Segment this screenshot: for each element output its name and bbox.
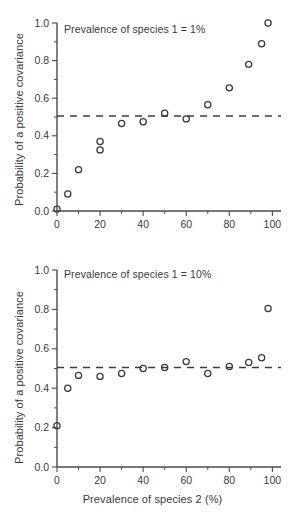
y-tick-label: 0.8	[34, 54, 49, 66]
data-point	[246, 359, 252, 365]
data-point	[265, 20, 271, 26]
data-point	[65, 385, 71, 391]
data-point	[75, 372, 81, 378]
y-tick-label: 0.4	[34, 129, 49, 141]
data-point	[97, 373, 103, 379]
data-point	[226, 85, 232, 91]
y-tick-label: 0.0	[34, 461, 49, 473]
plot-area-bottom: 0.00.20.40.60.81.0020406080100	[0, 258, 305, 522]
y-axis-label-top: Probability of a positive covariance	[13, 33, 25, 206]
data-point	[183, 359, 189, 365]
panel-annotation-bottom: Prevalence of species 1 = 10%	[64, 268, 211, 280]
plot-area-top: 0.00.20.40.60.81.0020406080100	[0, 0, 305, 258]
y-tick-label: 0.4	[34, 382, 49, 394]
x-tick-label: 40	[137, 218, 149, 230]
y-tick-label: 0.2	[34, 167, 49, 179]
data-point	[119, 120, 125, 126]
y-axis-label-bottom: Probability of a positive covariance	[13, 291, 25, 464]
y-tick-label: 0.8	[34, 303, 49, 315]
x-tick-label: 100	[264, 474, 282, 486]
y-tick-label: 1.0	[34, 17, 49, 29]
y-tick-label: 0.0	[34, 205, 49, 217]
data-point	[265, 305, 271, 311]
y-tick-label: 0.2	[34, 421, 49, 433]
x-tick-label: 100	[264, 218, 282, 230]
panel-top: 0.00.20.40.60.81.0020406080100 Prevalenc…	[0, 0, 305, 258]
data-point	[97, 138, 103, 144]
x-tick-label: 80	[223, 474, 235, 486]
data-point	[205, 102, 211, 108]
y-tick-label: 1.0	[34, 264, 49, 276]
data-point	[140, 119, 146, 125]
data-point	[205, 370, 211, 376]
panel-bottom: 0.00.20.40.60.81.0020406080100 Prevalenc…	[0, 258, 305, 522]
data-point	[226, 363, 232, 369]
x-tick-label: 20	[94, 474, 106, 486]
data-point	[259, 355, 265, 361]
x-tick-label: 80	[223, 218, 235, 230]
figure-two-panel-scatter: 0.00.20.40.60.81.0020406080100 Prevalenc…	[0, 0, 305, 522]
panel-annotation-top: Prevalence of species 1 = 1%	[64, 23, 205, 35]
x-tick-label: 20	[94, 218, 106, 230]
data-point	[246, 61, 252, 67]
y-tick-label: 0.6	[34, 92, 49, 104]
x-tick-label: 0	[54, 218, 60, 230]
data-point	[259, 41, 265, 47]
data-point	[119, 370, 125, 376]
y-tick-label: 0.6	[34, 342, 49, 354]
data-point	[97, 147, 103, 153]
x-axis-label: Prevalence of species 2 (%)	[0, 493, 305, 505]
data-point	[140, 365, 146, 371]
data-point	[65, 191, 71, 197]
x-tick-label: 60	[180, 474, 192, 486]
x-tick-label: 0	[54, 474, 60, 486]
x-tick-label: 40	[137, 474, 149, 486]
x-tick-label: 60	[180, 218, 192, 230]
data-point	[183, 116, 189, 122]
data-point	[75, 167, 81, 173]
